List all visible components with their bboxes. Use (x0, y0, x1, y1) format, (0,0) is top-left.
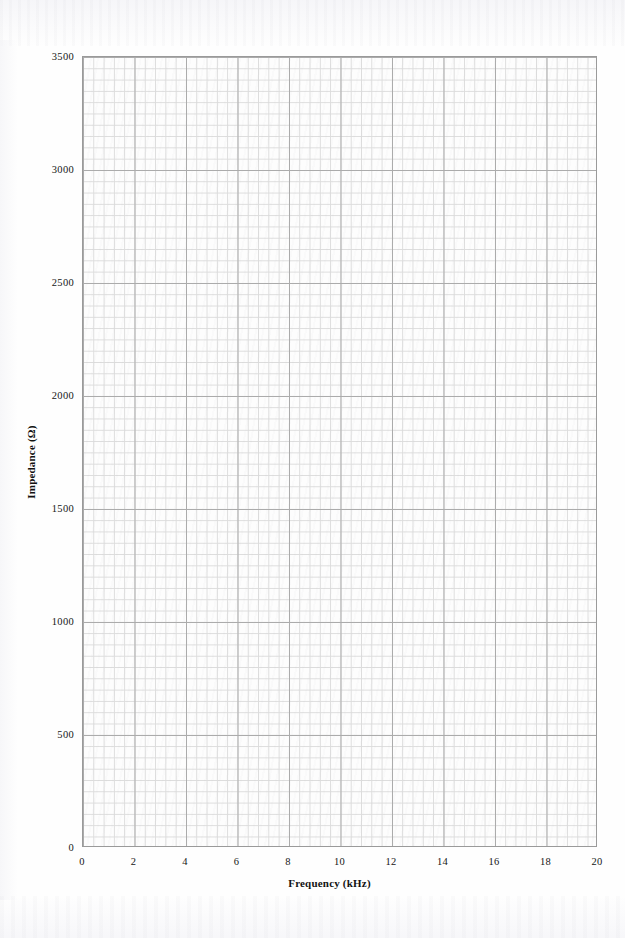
x-tick-label: 6 (217, 856, 257, 867)
chart-page: 0500100015002000250030003500 02468101214… (0, 0, 625, 938)
x-tick-label: 16 (474, 856, 514, 867)
x-tick-label: 10 (320, 856, 360, 867)
y-tick-label: 500 (10, 729, 74, 740)
x-tick-label: 20 (577, 856, 617, 867)
y-tick-label: 3000 (10, 164, 74, 175)
scan-artifact-bottom (0, 896, 625, 938)
x-tick-label: 12 (371, 856, 411, 867)
plot-area (82, 56, 597, 847)
x-tick-label: 4 (165, 856, 205, 867)
y-axis-tick-labels: 0500100015002000250030003500 (10, 0, 74, 938)
x-axis-tick-labels: 02468101214161820 (0, 856, 625, 874)
y-tick-label: 0 (10, 842, 74, 853)
y-tick-label: 2000 (10, 390, 74, 401)
data-series-layer (83, 57, 598, 848)
scan-artifact-top (0, 0, 625, 46)
y-tick-label: 1500 (10, 503, 74, 514)
y-tick-label: 1000 (10, 616, 74, 627)
x-axis-title: Frequency (kHz) (0, 877, 625, 889)
x-axis-title-text: Frequency (kHz) (288, 877, 371, 889)
x-tick-label: 0 (62, 856, 102, 867)
y-tick-label: 3500 (10, 51, 74, 62)
y-tick-label: 2500 (10, 277, 74, 288)
x-tick-label: 18 (526, 856, 566, 867)
x-tick-label: 2 (114, 856, 154, 867)
x-tick-label: 14 (423, 856, 463, 867)
x-tick-label: 8 (268, 856, 308, 867)
y-axis-title: Impedance (Ω) (25, 425, 37, 498)
